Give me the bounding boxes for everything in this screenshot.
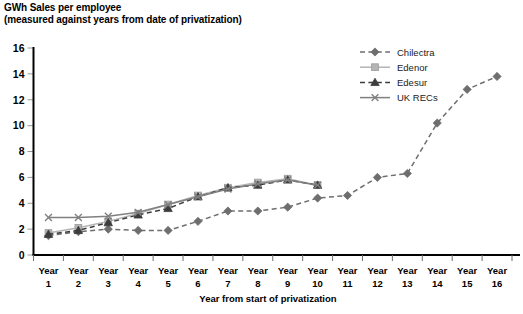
data-point-marker <box>254 207 262 215</box>
x-axis-tick-label: 9 <box>285 278 290 289</box>
x-axis-tick-label: 16 <box>492 278 503 289</box>
series-uk-recs <box>45 177 321 221</box>
x-axis-tick-label: 2 <box>76 278 81 289</box>
y-axis-tick-label: 14 <box>13 68 25 80</box>
data-point-marker <box>343 191 351 199</box>
x-axis-tick-label: Year <box>367 265 387 276</box>
legend-item-edesur[interactable]: Edesur <box>360 77 427 88</box>
x-axis-tick-label: 1 <box>46 278 52 289</box>
data-point-marker <box>104 225 112 233</box>
chart-plot: 0246810121416 Year1Year2Year3Year4Year5Y… <box>0 0 523 314</box>
x-axis-tick-label: Year <box>457 265 477 276</box>
x-axis-tick-label: 4 <box>136 278 142 289</box>
x-axis-tick-label: 15 <box>462 278 473 289</box>
x-axis-tick-label: 13 <box>402 278 413 289</box>
data-point-marker <box>373 173 381 181</box>
series-edesur <box>44 176 322 238</box>
x-axis-tick-label: 14 <box>432 278 443 289</box>
y-axis-tick-group: 0246810121416 <box>13 42 34 261</box>
x-axis-title: Year from start of privatization <box>199 293 336 304</box>
legend-label: Edesur <box>397 77 427 88</box>
x-axis-tick-label: 3 <box>106 278 111 289</box>
legend-item-edenor[interactable]: Edenor <box>360 62 428 73</box>
y-axis-tick-label: 0 <box>19 249 25 261</box>
legend-marker <box>371 48 379 56</box>
x-axis-label-group: Year1Year2Year3Year4Year5Year6Year7Year8… <box>38 265 507 289</box>
series-line <box>48 179 317 233</box>
x-axis-tick-label: Year <box>278 265 298 276</box>
x-axis-tick-label: Year <box>98 265 118 276</box>
data-point-marker <box>463 85 471 93</box>
x-axis-tick-label: Year <box>218 265 238 276</box>
x-axis-tick-label: Year <box>158 265 178 276</box>
series-line <box>48 180 317 218</box>
x-axis-tick-label: 8 <box>255 278 260 289</box>
x-axis-tick-label: Year <box>397 265 417 276</box>
data-point-marker <box>314 194 322 202</box>
data-point-marker <box>284 203 292 211</box>
x-axis-tick-label: Year <box>38 265 58 276</box>
x-axis-tick-label: Year <box>68 265 88 276</box>
y-axis-tick-label: 2 <box>19 223 25 235</box>
legend-label: Chilectra <box>397 47 435 58</box>
y-axis-tick-label: 4 <box>19 197 25 209</box>
y-axis-tick-label: 6 <box>19 171 25 183</box>
chart-container: GWh Sales per employee (measured against… <box>0 0 523 314</box>
x-axis-tick-label: Year <box>427 265 447 276</box>
legend-item-uk-recs[interactable]: UK RECs <box>360 92 438 103</box>
data-point-marker <box>194 217 202 225</box>
y-axis-tick-label: 12 <box>13 94 25 106</box>
x-axis-tick-label: 5 <box>165 278 171 289</box>
x-axis-tick-label: 11 <box>342 278 353 289</box>
legend-marker <box>372 64 379 71</box>
data-point-marker <box>224 207 232 215</box>
y-axis-tick-label: 10 <box>13 119 25 131</box>
x-axis-tick-label: Year <box>188 265 208 276</box>
data-point-marker <box>164 226 172 234</box>
x-axis-tick-label: Year <box>128 265 148 276</box>
legend-item-chilectra[interactable]: Chilectra <box>360 47 435 58</box>
series-edenor <box>45 175 321 236</box>
x-axis-tick-label: 10 <box>312 278 323 289</box>
data-point-marker <box>134 226 142 234</box>
y-axis-tick-label: 8 <box>19 145 25 157</box>
x-axis-tick-label: 6 <box>195 278 200 289</box>
legend-label: UK RECs <box>397 92 438 103</box>
x-axis-tick-label: 7 <box>225 278 230 289</box>
x-axis-tick-label: Year <box>487 265 507 276</box>
x-axis-tick-label: 12 <box>372 278 383 289</box>
legend-label: Edenor <box>397 62 428 73</box>
y-axis-tick-label: 16 <box>13 42 25 54</box>
data-point-marker <box>403 169 411 177</box>
chart-legend: ChilectraEdenorEdesurUK RECs <box>360 47 438 104</box>
x-axis-tick-label: Year <box>248 265 268 276</box>
x-axis-tick-label: Year <box>337 265 357 276</box>
data-point-marker <box>493 72 501 80</box>
x-axis-tick-label: Year <box>308 265 328 276</box>
